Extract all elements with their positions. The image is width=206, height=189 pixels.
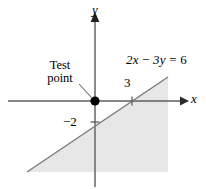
y-axis-label: y	[92, 3, 98, 17]
inequality-graph-figure: 2x − 3y = 6 Testpoint 3 −2 x y	[0, 0, 206, 189]
y-intercept-tick-label: −2	[63, 115, 77, 129]
test-point-leader-line	[79, 84, 92, 98]
equation-term-b: 3y	[153, 52, 166, 67]
equation-equals-sign: =	[166, 52, 180, 67]
equation-term-a: 2x	[126, 52, 139, 67]
x-axis-arrowhead	[180, 96, 189, 105]
test-point-marker	[90, 96, 99, 105]
equation-label: 2x − 3y = 6	[126, 53, 187, 67]
equation-constant: 6	[180, 52, 187, 67]
equation-minus-sign: −	[139, 52, 153, 67]
x-intercept-tick-label: 3	[124, 76, 131, 90]
graph-canvas	[0, 0, 206, 189]
x-axis-label: x	[191, 92, 197, 106]
test-point-label-line1: Test	[50, 58, 71, 72]
test-point-label: Testpoint	[36, 59, 84, 85]
test-point-label-line2: point	[47, 71, 73, 85]
